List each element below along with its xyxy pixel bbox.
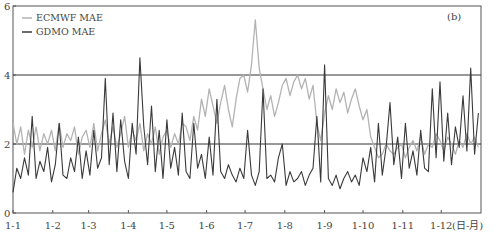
- plot-frame: [13, 6, 481, 213]
- x-tick-label: 1-2: [45, 220, 61, 231]
- x-tick-label: 1-5: [159, 220, 175, 231]
- y-tick-label: 0: [4, 208, 10, 219]
- x-tick-label: 1-11: [392, 220, 414, 231]
- x-tick-label: 1-3: [81, 220, 97, 231]
- legend-label-ecmwf: ECMWF MAE: [36, 12, 103, 23]
- x-unit-label: (日-月): [452, 220, 483, 231]
- legend-label-gdmo: GDMO MAE: [36, 26, 95, 37]
- x-tick-label: 1-7: [237, 220, 253, 231]
- legend: ECMWF MAE GDMO MAE: [22, 12, 103, 37]
- x-tick-label: 1-10: [352, 220, 374, 231]
- y-tick-label: 6: [4, 1, 10, 12]
- x-tick-label: 1-9: [317, 220, 333, 231]
- x-tick-label: 1-4: [120, 220, 136, 231]
- mae-line-chart: 0246 1-11-21-31-41-51-61-71-81-91-101-11…: [0, 0, 493, 237]
- x-tick-label: 1-12: [430, 220, 452, 231]
- y-tick-label: 2: [4, 139, 10, 150]
- x-tick-label: 1-6: [199, 220, 215, 231]
- series-line-ecmwf: [13, 20, 478, 158]
- series-layer: [13, 20, 478, 193]
- y-tick-label: 4: [4, 70, 10, 81]
- x-tick-label: 1-8: [277, 220, 293, 231]
- series-line-gdmo: [13, 58, 478, 193]
- x-tick-label: 1-1: [5, 220, 21, 231]
- panel-label: (b): [447, 11, 461, 22]
